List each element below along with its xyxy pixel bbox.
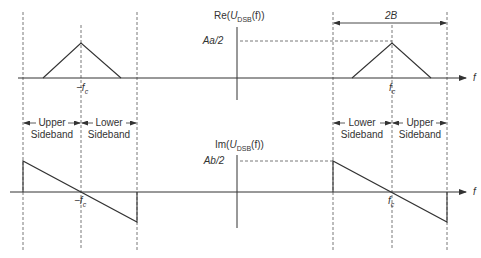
bottom-plot-imag-part: Im(UDSB(f)) Ab/2 f −fc fc: [10, 139, 477, 228]
top-ylabel: Re(UDSB(f)): [214, 10, 265, 23]
bottom-level-label: Ab/2: [203, 155, 225, 166]
sideband-left-lower: LowerSideband: [88, 117, 130, 140]
bottom-neg-carrier-label: −fc: [74, 195, 87, 208]
sideband-right-lower: LowerSideband: [341, 117, 383, 140]
bottom-pos-carrier-label: fc: [388, 195, 395, 208]
sideband-annotations: UpperSideband LowerSideband LowerSideban…: [24, 117, 446, 140]
sideband-left-upper: UpperSideband: [31, 117, 73, 140]
pos-triangle-spectrum: [352, 43, 431, 78]
top-neg-carrier-label: −fc: [76, 82, 89, 95]
top-level-label: Aa/2: [202, 35, 224, 46]
sideband-right-upper: UpperSideband: [399, 117, 441, 140]
neg-triangle-spectrum: [43, 43, 121, 78]
bandwidth-label: 2B: [384, 10, 398, 21]
bottom-x-axis-label: f: [473, 186, 477, 197]
bottom-ylabel: Im(UDSB(f)): [215, 139, 264, 152]
top-x-axis-label: f: [473, 72, 477, 83]
dsb-spectrum-diagram: Re(UDSB(f)) Aa/2 2B f −fc fc UpperSideba…: [0, 0, 481, 258]
top-plot-real-part: Re(UDSB(f)) Aa/2 2B f −fc fc: [18, 10, 477, 100]
top-pos-carrier-label: fc: [389, 82, 396, 95]
